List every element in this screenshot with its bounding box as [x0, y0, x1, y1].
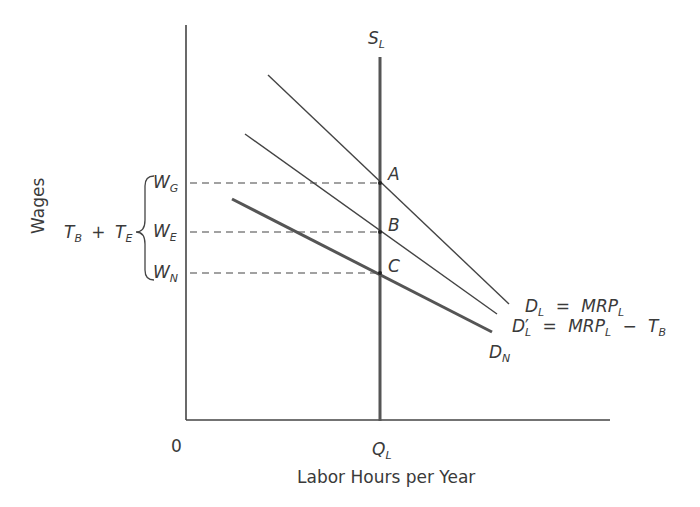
y-axis-label: Wages: [28, 178, 48, 234]
demand-prime-curve-label: D′L = MRPL − TB: [512, 318, 666, 338]
te-symbol: T: [115, 222, 125, 242]
wage-n-label: WN: [153, 264, 178, 284]
point-b-dot: [378, 230, 382, 234]
demand-curve-label: DL = MRPL: [525, 298, 624, 318]
plus-sign: +: [91, 222, 105, 242]
point-a-dot: [378, 181, 382, 185]
diagram-canvas: [0, 0, 700, 507]
point-a-label: A: [388, 166, 400, 183]
wage-e-label: WE: [153, 223, 177, 243]
tax-label: TB + TE: [64, 224, 132, 244]
te-sub: E: [125, 232, 132, 245]
x-axis-label: Labor Hours per Year: [297, 469, 475, 486]
wage-g-label: WG: [153, 174, 178, 194]
supply-label: SL: [368, 30, 385, 50]
tb-symbol: T: [64, 222, 74, 242]
point-c-dot: [378, 271, 382, 275]
demand-net-curve-label: DN: [489, 344, 510, 364]
quantity-label: QL: [372, 441, 392, 461]
point-b-label: B: [388, 217, 400, 234]
tb-sub: B: [74, 232, 82, 245]
demand-net-curve: [232, 199, 492, 332]
point-c-label: C: [388, 258, 400, 275]
tax-brace: [136, 176, 154, 280]
origin-label: 0: [171, 438, 182, 455]
